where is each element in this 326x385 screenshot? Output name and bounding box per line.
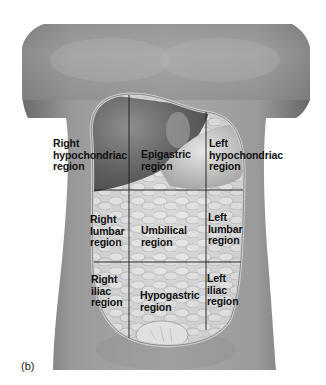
label-right-iliac: Right iliac region [91, 274, 123, 309]
label-left-lumbar: Left lumbar region [208, 212, 242, 247]
label-right-hypochondriac: Right hypochondriac region [53, 138, 127, 173]
label-umbilical: Umbilical region [141, 225, 187, 248]
label-right-lumbar: Right lumbar region [90, 214, 124, 249]
panel-letter: (b) [21, 360, 34, 372]
torso-illustration [0, 0, 326, 385]
label-left-hypochondriac: Left hypochondriac region [209, 138, 283, 173]
abdominal-regions-figure: Right hypochondriac region Epigastric re… [0, 0, 326, 385]
label-hypogastric: Hypogastric region [140, 290, 200, 313]
label-epigastric: Epigastric region [141, 149, 191, 172]
label-left-iliac: Left iliac region [207, 273, 239, 308]
